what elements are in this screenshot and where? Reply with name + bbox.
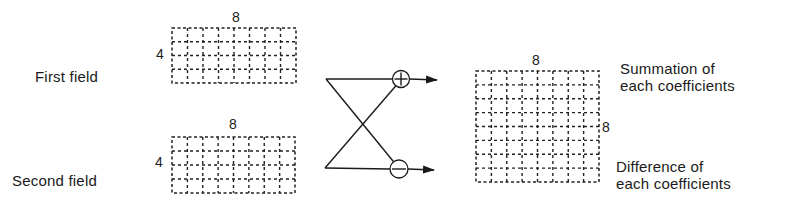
second-field-width-label: 8 (229, 117, 237, 131)
summation-caption: Summation of each coefficients (620, 60, 735, 94)
first-field-label: First field (35, 68, 98, 85)
summation-caption-line2: each coefficients (620, 77, 735, 94)
difference-caption-line2: each coefficients (616, 175, 731, 192)
first-field-block-grid (172, 28, 296, 83)
sum-output-arrow (410, 79, 438, 80)
second-field-label: Second field (12, 172, 97, 189)
second-field-height-label: 4 (155, 155, 163, 169)
difference-output-arrow (408, 169, 434, 170)
butterfly-connections (325, 71, 437, 179)
output-width-label: 8 (532, 53, 540, 67)
cross-line-down (326, 79, 394, 162)
output-height-label: 8 (602, 120, 610, 134)
difference-caption: Difference of each coefficients (616, 158, 731, 192)
cross-line-up (325, 86, 396, 168)
first-field-height-label: 4 (156, 47, 164, 61)
first-field-width-label: 8 (232, 10, 240, 24)
bottom-input-line (325, 168, 390, 169)
summation-caption-line1: Summation of (620, 60, 735, 77)
second-field-block-grid (172, 137, 295, 193)
difference-caption-line1: Difference of (616, 158, 731, 175)
output-coefficient-grid (476, 71, 599, 182)
